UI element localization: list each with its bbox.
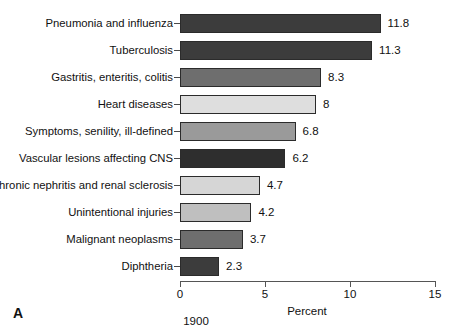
category-label: Tuberculosis — [109, 37, 180, 64]
bar-value-label: 4.7 — [267, 176, 283, 195]
category-label: Heart diseases — [98, 91, 180, 118]
bar-value-label: 11.8 — [388, 14, 410, 33]
bar — [180, 122, 296, 141]
bar-chart-figure: Pneumonia and influenza11.8Tuberculosis1… — [0, 0, 454, 333]
bar-value-label: 4.2 — [258, 203, 274, 222]
category-label: Unintentional injuries — [68, 199, 180, 226]
category-label: Symptoms, senility, ill-defined — [25, 118, 180, 145]
bar — [180, 14, 381, 33]
x-tick — [180, 281, 181, 287]
bar-value-label: 3.7 — [250, 230, 266, 249]
bar-value-label: 8.3 — [328, 68, 344, 87]
bar-value-label: 8 — [323, 95, 329, 114]
bar-value-label: 6.2 — [292, 149, 308, 168]
panel-label: A — [13, 305, 23, 321]
bar — [180, 176, 260, 195]
category-label: Diphtheria — [122, 253, 181, 280]
x-tick — [350, 281, 351, 287]
plot-area: Pneumonia and influenza11.8Tuberculosis1… — [0, 0, 454, 281]
bar-row: Unintentional injuries4.2 — [0, 199, 454, 226]
bar-row: Diphtheria2.3 — [0, 253, 454, 280]
bar-value-label: 11.3 — [379, 41, 401, 60]
bar-value-label: 2.3 — [226, 257, 242, 276]
x-tick — [265, 281, 266, 287]
category-label: Vascular lesions affecting CNS — [19, 145, 180, 172]
bar — [180, 203, 251, 222]
category-label: Malignant neoplasms — [66, 226, 180, 253]
bar-row: Vascular lesions affecting CNS6.2 — [0, 145, 454, 172]
category-label: Gastritis, enteritis, colitis — [51, 64, 180, 91]
bar-row: Heart diseases8 — [0, 91, 454, 118]
category-label: Pneumonia and influenza — [46, 10, 181, 37]
bar — [180, 257, 219, 276]
bar — [180, 41, 372, 60]
bar — [180, 230, 243, 249]
x-tick-label: 10 — [344, 288, 357, 300]
category-label: Chronic nephritis and renal sclerosis — [0, 172, 180, 199]
x-tick-label: 15 — [429, 288, 442, 300]
bar-row: Symptoms, senility, ill-defined6.8 — [0, 118, 454, 145]
bar-row: Pneumonia and influenza11.8 — [0, 10, 454, 37]
x-axis-line — [180, 281, 435, 282]
bar — [180, 149, 285, 168]
x-tick-label: 0 — [177, 288, 183, 300]
bar-row: Tuberculosis11.3 — [0, 37, 454, 64]
bar-row: Malignant neoplasms3.7 — [0, 226, 454, 253]
bar-value-label: 6.8 — [303, 122, 319, 141]
bar — [180, 68, 321, 87]
year-caption: 1900 — [183, 315, 209, 327]
bar — [180, 95, 316, 114]
bar-row: Chronic nephritis and renal sclerosis4.7 — [0, 172, 454, 199]
x-tick-label: 5 — [262, 288, 268, 300]
x-tick — [435, 281, 436, 287]
x-axis-title: Percent — [287, 305, 327, 317]
bar-row: Gastritis, enteritis, colitis8.3 — [0, 64, 454, 91]
